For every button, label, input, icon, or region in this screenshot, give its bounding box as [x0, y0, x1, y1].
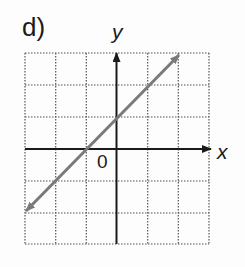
origin-label: 0 — [97, 151, 108, 173]
graph-line — [26, 55, 179, 211]
part-label: d) — [22, 12, 45, 43]
x-axis-label: x — [217, 140, 228, 164]
y-axis-label: y — [112, 20, 123, 44]
